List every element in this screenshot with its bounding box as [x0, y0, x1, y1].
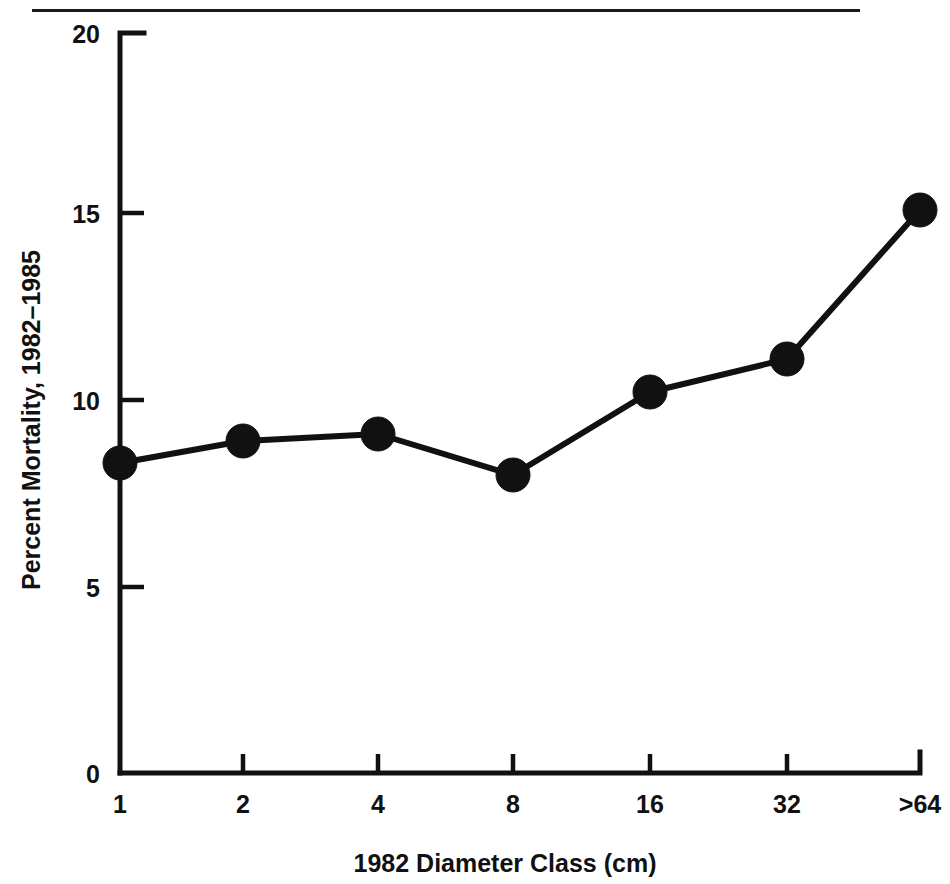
data-point-marker[interactable] [103, 446, 137, 480]
y-axis-title: Percent Mortality, 1982–1985 [17, 250, 45, 590]
y-tick-label-15: 15 [72, 200, 100, 228]
data-point-marker[interactable] [361, 417, 395, 451]
data-point-marker[interactable] [633, 375, 667, 409]
x-axis-line [120, 752, 920, 773]
x-tick-label-8: 8 [506, 790, 520, 818]
x-tick-label-gt64: >64 [899, 790, 942, 818]
data-point-marker[interactable] [903, 193, 937, 227]
x-axis-title: 1982 Diameter Class (cm) [354, 849, 657, 877]
x-tick-label-32: 32 [773, 790, 801, 818]
line-chart: Percent Mortality, 1982–1985 20 15 10 5 … [0, 0, 950, 884]
data-point-marker[interactable] [770, 342, 804, 376]
data-point-marker[interactable] [496, 458, 530, 492]
y-tick-label-0: 0 [86, 760, 100, 788]
y-tick-label-20: 20 [72, 20, 100, 48]
data-point-marker[interactable] [226, 424, 260, 458]
y-tick-label-5: 5 [86, 574, 100, 602]
x-tick-label-16: 16 [636, 790, 664, 818]
figure-container: Percent Mortality, 1982–1985 20 15 10 5 … [0, 0, 950, 884]
x-tick-label-4: 4 [371, 790, 385, 818]
x-tick-label-2: 2 [236, 790, 250, 818]
x-tick-label-1: 1 [113, 790, 127, 818]
y-tick-label-10: 10 [72, 387, 100, 415]
y-axis-line [120, 33, 144, 773]
